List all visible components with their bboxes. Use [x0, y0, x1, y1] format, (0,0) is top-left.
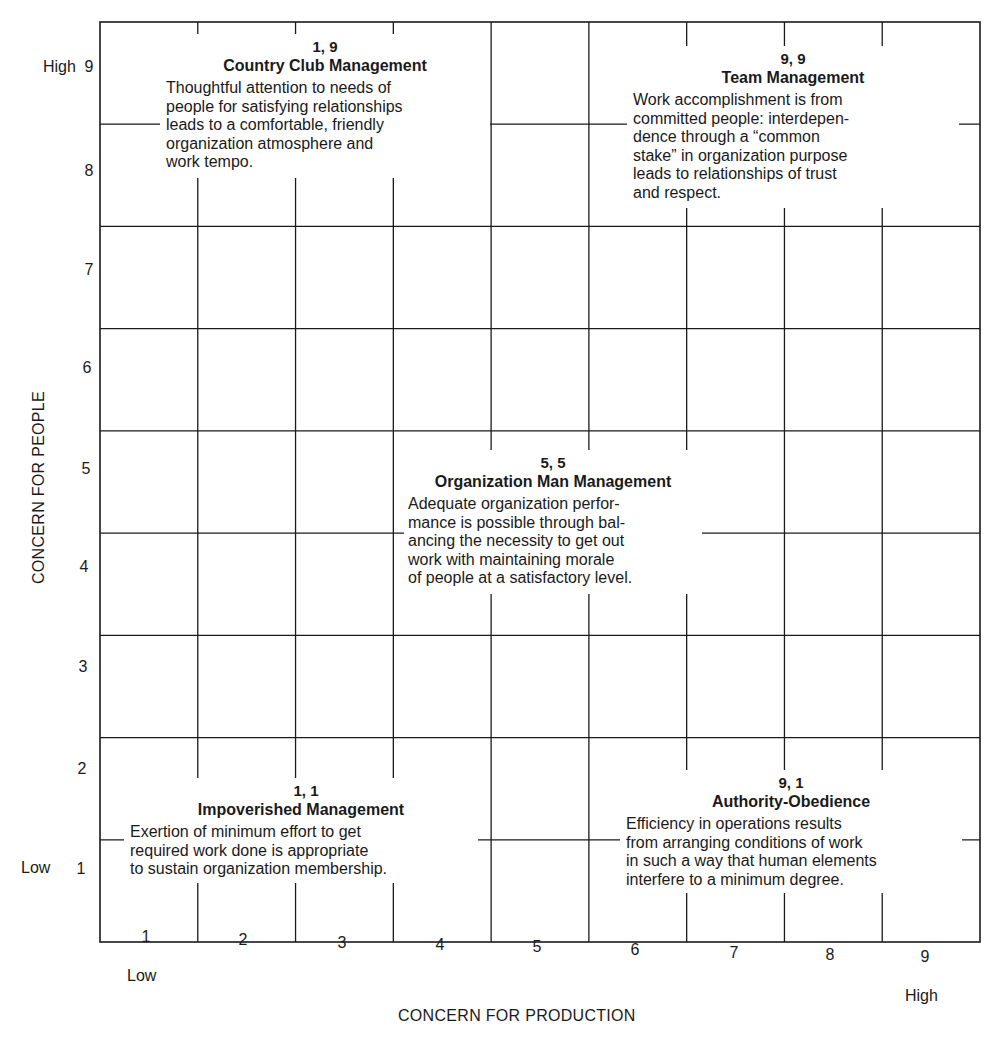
style-coord: 1, 9	[166, 38, 484, 56]
style-coord: 1, 1	[140, 782, 472, 800]
y-tick-2: 2	[67, 760, 97, 778]
y-low-label: Low	[21, 859, 50, 877]
x-tick-7: 7	[719, 944, 749, 962]
style-description: Adequate organization perfor- mance is p…	[408, 495, 698, 588]
y-tick-8: 8	[74, 162, 104, 180]
y-axis-title: CONCERN FOR PEOPLE	[30, 391, 48, 584]
style-description: Work accomplishment is from committed pe…	[633, 91, 953, 202]
y-tick-3: 3	[68, 658, 98, 676]
style-team: 9, 9 Team Management Work accomplishment…	[627, 46, 959, 208]
x-tick-8: 8	[815, 946, 845, 964]
x-high-label: High	[905, 987, 938, 1005]
style-coord: 9, 1	[626, 774, 956, 792]
style-description: Thoughtful attention to needs of people …	[166, 79, 484, 172]
style-description: Efficiency in operations results from ar…	[626, 815, 956, 889]
x-tick-9: 9	[910, 948, 940, 966]
x-tick-4: 4	[425, 936, 455, 954]
style-country-club: 1, 9 Country Club Management Thoughtful …	[160, 34, 490, 178]
y-high-label: High	[43, 58, 76, 76]
style-organization-man: 5, 5 Organization Man Management Adequat…	[404, 450, 702, 594]
x-tick-2: 2	[228, 931, 258, 949]
style-description: Exertion of minimum effort to get requir…	[130, 823, 472, 879]
x-tick-5: 5	[522, 938, 552, 956]
y-tick-6: 6	[72, 359, 102, 377]
y-tick-4: 4	[69, 558, 99, 576]
style-name: Impoverished Management	[130, 800, 472, 819]
style-name: Authority-Obedience	[626, 792, 956, 811]
style-impoverished: 1, 1 Impoverished Management Exertion of…	[124, 778, 478, 883]
style-name: Organization Man Management	[408, 472, 698, 491]
y-tick-9: 9	[74, 58, 104, 76]
style-name: Country Club Management	[166, 56, 484, 75]
x-tick-3: 3	[327, 934, 357, 952]
y-tick-5: 5	[71, 460, 101, 478]
y-tick-1: 1	[66, 860, 96, 878]
style-authority-obedience: 9, 1 Authority-Obedience Efficiency in o…	[620, 770, 962, 893]
y-tick-7: 7	[74, 261, 104, 279]
x-tick-6: 6	[620, 941, 650, 959]
style-coord: 5, 5	[408, 454, 698, 472]
x-low-label: Low	[127, 967, 156, 985]
style-coord: 9, 9	[633, 50, 953, 68]
x-tick-1: 1	[131, 928, 161, 946]
style-name: Team Management	[633, 68, 953, 87]
x-axis-title: CONCERN FOR PRODUCTION	[398, 1007, 636, 1025]
